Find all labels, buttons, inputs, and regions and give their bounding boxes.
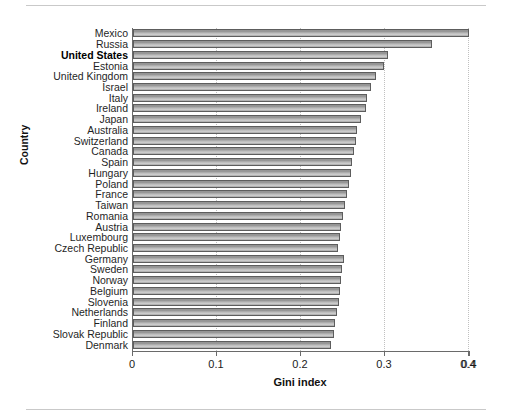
bar xyxy=(133,233,340,241)
category-label: Canada xyxy=(91,146,128,156)
bar xyxy=(133,83,371,91)
page-rule-top xyxy=(26,5,486,6)
page-rule-bottom xyxy=(26,409,486,410)
category-label: Germany xyxy=(85,254,128,264)
bar xyxy=(133,212,343,220)
bar xyxy=(133,180,349,188)
category-label: Switzerland xyxy=(74,136,128,146)
bar xyxy=(133,223,341,231)
category-label-column: MexicoRussiaUnited StatesEstoniaUnited K… xyxy=(0,28,128,351)
category-label: United States xyxy=(61,50,128,60)
bar xyxy=(133,308,337,316)
x-axis-tick-label: 0.4 xyxy=(461,358,476,370)
bar xyxy=(133,341,331,349)
bar xyxy=(133,115,361,123)
x-axis-tick-label: 0 xyxy=(129,358,135,370)
bar xyxy=(133,287,340,295)
bar xyxy=(133,298,339,306)
category-label: Slovenia xyxy=(88,297,128,307)
bar xyxy=(133,330,334,338)
category-label: Luxembourg xyxy=(70,232,128,242)
x-axis-title: Gini index xyxy=(132,376,468,388)
category-label: Hungary xyxy=(88,168,128,178)
bar xyxy=(133,169,351,177)
bar xyxy=(133,72,376,80)
bar xyxy=(133,51,388,59)
bar xyxy=(133,201,345,209)
category-label: Norway xyxy=(92,275,128,285)
category-label: Mexico xyxy=(95,28,128,38)
bar xyxy=(133,147,354,155)
category-label: United Kingdom xyxy=(53,71,128,81)
bar xyxy=(133,94,367,102)
category-label: France xyxy=(95,189,128,199)
x-axis-tick-label: 0.1 xyxy=(208,358,223,370)
category-label: Slovak Republic xyxy=(53,329,128,339)
category-label: Romania xyxy=(86,211,128,221)
category-label: Austria xyxy=(95,222,128,232)
bar xyxy=(133,62,384,70)
bar xyxy=(133,319,335,327)
category-label: Estonia xyxy=(93,61,128,71)
x-axis-tick xyxy=(469,351,470,356)
category-label: Poland xyxy=(95,179,128,189)
bar xyxy=(133,137,356,145)
category-label: Netherlands xyxy=(71,307,128,317)
category-label: Finland xyxy=(94,318,128,328)
bar xyxy=(133,104,366,112)
plot-area: 00.10.20.30.40.4 xyxy=(132,28,468,351)
category-label: Denmark xyxy=(85,340,128,350)
bar xyxy=(133,190,347,198)
category-label: Taiwan xyxy=(95,200,128,210)
gridline xyxy=(468,28,470,351)
bar xyxy=(133,265,342,273)
category-label: Australia xyxy=(87,125,128,135)
x-axis-tick xyxy=(384,351,385,356)
category-label: Israel xyxy=(102,82,128,92)
gini-index-bar-chart-figure: Country MexicoRussiaUnited StatesEstonia… xyxy=(0,0,508,415)
bar xyxy=(133,276,341,284)
bar xyxy=(133,40,432,48)
category-label: Czech Republic xyxy=(54,243,128,253)
bar xyxy=(133,158,352,166)
bar xyxy=(133,126,357,134)
x-axis-tick-label: 0.2 xyxy=(292,358,307,370)
category-label: Sweden xyxy=(90,264,128,274)
x-axis-tick-label: 0.3 xyxy=(376,358,391,370)
category-label: Spain xyxy=(101,157,128,167)
bar xyxy=(133,244,338,252)
category-label: Belgium xyxy=(90,286,128,296)
bar xyxy=(133,255,344,263)
category-label: Japan xyxy=(99,114,128,124)
category-label: Ireland xyxy=(96,103,128,113)
gridline xyxy=(384,28,386,351)
x-axis-tick xyxy=(132,351,133,356)
category-label: Italy xyxy=(109,93,128,103)
x-axis-tick xyxy=(300,351,301,356)
x-axis-tick xyxy=(216,351,217,356)
category-label: Russia xyxy=(96,39,128,49)
bar xyxy=(133,29,469,37)
